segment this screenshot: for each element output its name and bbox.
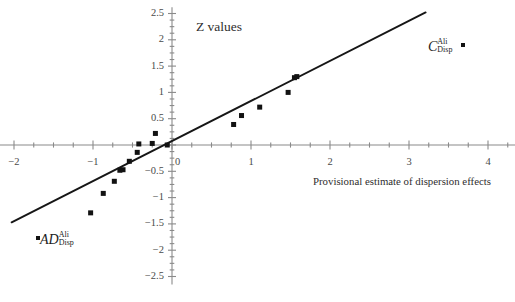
annotation-c-script: AliDisp xyxy=(437,38,452,54)
regression-line xyxy=(12,12,426,222)
x-tick-label: 2 xyxy=(327,157,332,168)
data-point xyxy=(165,143,170,148)
data-point xyxy=(257,105,262,110)
annotation-marker-right xyxy=(461,43,465,47)
data-point xyxy=(127,159,132,164)
data-point xyxy=(101,191,106,196)
data-point xyxy=(231,122,236,127)
data-point xyxy=(136,141,141,146)
y-tick-label: −0.5 xyxy=(130,166,164,177)
data-point xyxy=(294,74,299,79)
y-tick-label: 1.5 xyxy=(130,61,164,72)
x-tick-label: 3 xyxy=(406,157,411,168)
y-tick-label: −2.5 xyxy=(130,271,164,282)
data-point xyxy=(88,210,93,215)
x-tick-label: −2 xyxy=(8,157,19,168)
annotation-c-disp-ali: CAliDisp xyxy=(428,38,465,54)
data-point xyxy=(112,179,117,184)
chart-title: Z values xyxy=(196,20,242,34)
data-point xyxy=(135,150,140,155)
data-point xyxy=(153,131,158,136)
y-tick-label: 2.5 xyxy=(130,8,164,19)
y-tick-label: −1 xyxy=(130,192,164,203)
y-tick-label: 0.5 xyxy=(130,113,164,124)
y-tick-label: 2 xyxy=(130,34,164,45)
x-tick-label: 1 xyxy=(248,157,253,168)
x-axis-title: Provisional estimate of dispersion effec… xyxy=(313,176,491,187)
annotation-c-sub: Disp xyxy=(437,45,452,54)
x-tick-label-zero: 0 xyxy=(175,157,180,168)
regression-line-group xyxy=(12,12,426,222)
annotation-ad-disp-ali: ADAliDisp xyxy=(36,231,74,247)
annotation-ad-sub: Disp xyxy=(59,238,74,247)
y-tick-label: 1 xyxy=(130,87,164,98)
data-point xyxy=(239,113,244,118)
data-point xyxy=(121,167,126,172)
y-tick-label: −1.5 xyxy=(130,218,164,229)
annotation-ad-base: AD xyxy=(40,232,59,247)
data-point xyxy=(286,90,291,95)
x-tick-label: 4 xyxy=(485,157,490,168)
y-tick-label: −2 xyxy=(130,245,164,256)
annotation-c-base: C xyxy=(428,39,437,54)
annotation-ad-script: AliDisp xyxy=(59,231,74,247)
data-point xyxy=(150,141,155,146)
x-tick-label: −1 xyxy=(87,157,98,168)
